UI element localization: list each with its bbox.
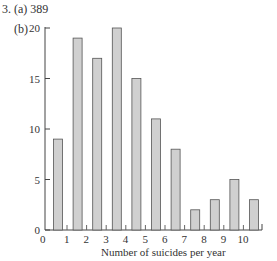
x-tick-label: 9	[221, 233, 227, 245]
x-axis-title: Number of suicides per year	[101, 246, 226, 258]
x-tick-label: 8	[201, 233, 207, 245]
bar-10	[250, 200, 259, 230]
x-tick-label: 10	[237, 233, 248, 245]
bar-8	[210, 200, 219, 230]
bar-chart	[0, 0, 277, 261]
y-tick-label: 10	[29, 123, 40, 135]
bar-2	[93, 58, 102, 230]
bar-5	[152, 119, 161, 230]
y-tick-label: 5	[35, 174, 41, 186]
bar-7	[191, 210, 200, 230]
x-tick-label: 3	[103, 233, 109, 245]
x-tick-label: 4	[123, 233, 129, 245]
x-tick-label: 7	[182, 233, 188, 245]
y-tick-label: 15	[29, 73, 40, 85]
x-tick-label: 5	[142, 233, 148, 245]
bar-3	[112, 28, 121, 230]
y-tick-label: 20	[29, 22, 40, 34]
bar-4	[132, 79, 141, 231]
bar-0	[54, 139, 63, 230]
bar-6	[171, 149, 180, 230]
x-tick-label: 2	[84, 233, 90, 245]
x-tick-label: 6	[162, 233, 168, 245]
x-tick-label: 1	[64, 233, 70, 245]
bar-9	[230, 180, 239, 231]
x-tick-label: 0	[40, 233, 46, 245]
bar-1	[73, 38, 82, 230]
